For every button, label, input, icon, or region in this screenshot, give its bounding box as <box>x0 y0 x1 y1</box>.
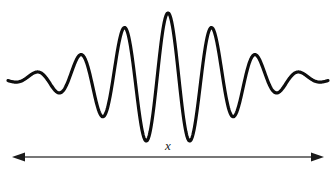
x-axis-label: x <box>165 139 171 152</box>
wave-packet-figure: x <box>0 0 336 172</box>
